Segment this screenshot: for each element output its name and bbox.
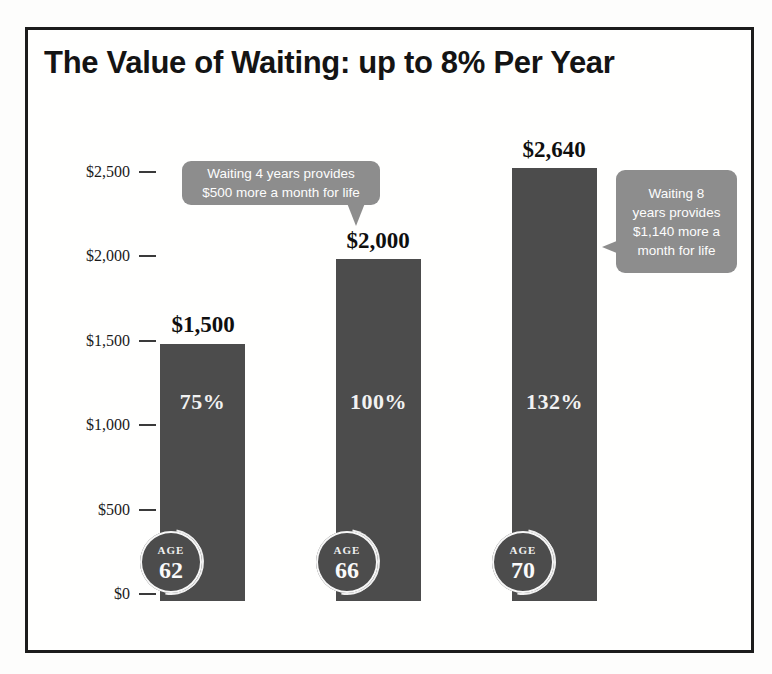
y-axis-tick-label: $500: [98, 500, 130, 520]
y-axis-tick-mark: [139, 340, 156, 342]
y-axis-tick-mark: [139, 255, 156, 257]
y-axis-tick-label: $2,500: [86, 162, 130, 182]
age-badge-70: AGE 70: [492, 531, 554, 593]
callout-waiting-8-years: Waiting 8 years provides $1,140 more a m…: [616, 170, 737, 273]
y-axis-tick: $500: [40, 500, 156, 520]
y-axis-tick-mark: [139, 424, 156, 426]
chart-root: The Value of Waiting: up to 8% Per Year …: [0, 0, 772, 674]
y-axis-tick: $1,500: [40, 331, 156, 351]
y-axis-tick-mark: [139, 509, 156, 511]
y-axis-tick-label: $1,000: [86, 415, 130, 435]
callout-1-line-1: Waiting 4 years provides: [202, 164, 360, 183]
y-axis-tick-label: $2,000: [86, 246, 130, 266]
callout-waiting-4-years: Waiting 4 years provides $500 more a mon…: [182, 161, 380, 205]
callout-2-line-3: $1,140 more a: [633, 222, 721, 241]
y-axis-tick: $2,000: [40, 246, 156, 266]
badge-age-number: 62: [140, 557, 202, 584]
badge-age-number: 66: [316, 557, 378, 584]
badge-age-word: AGE: [140, 544, 202, 556]
badge-age-number: 70: [492, 557, 554, 584]
y-axis-tick-label: $0: [114, 584, 130, 604]
y-axis-tick: $0: [40, 584, 156, 604]
badge-age-word: AGE: [316, 544, 378, 556]
callout-2-line-1: Waiting 8: [633, 184, 721, 203]
badge-age-word: AGE: [492, 544, 554, 556]
callout-1-text: Waiting 4 years provides $500 more a mon…: [202, 164, 360, 202]
age-badge-66: AGE 66: [316, 531, 378, 593]
callout-1-line-2: $500 more a month for life: [202, 183, 360, 202]
y-axis-tick: $2,500: [40, 162, 156, 182]
callout-2-line-2: years provides: [633, 203, 721, 222]
bar-percent-label: 132%: [512, 389, 597, 415]
y-axis-tick: $1,000: [40, 415, 156, 435]
callout-2-text: Waiting 8 years provides $1,140 more a m…: [633, 184, 721, 260]
bar-percent-label: 75%: [160, 389, 245, 415]
y-axis-tick-label: $1,500: [86, 331, 130, 351]
bar-value-label: $2,640: [501, 137, 607, 163]
bar-value-label: $1,500: [150, 312, 256, 338]
bar-percent-label: 100%: [336, 389, 421, 415]
bar-value-label: $2,000: [325, 228, 431, 254]
age-badge-62: AGE 62: [140, 531, 202, 593]
plot-area: $2,500 $2,000 $1,500 $1,000 $500 $0 $1,5…: [0, 0, 772, 674]
y-axis-tick-mark: [139, 171, 156, 173]
y-axis-tick-mark: [139, 593, 156, 595]
callout-2-line-4: month for life: [633, 241, 721, 260]
